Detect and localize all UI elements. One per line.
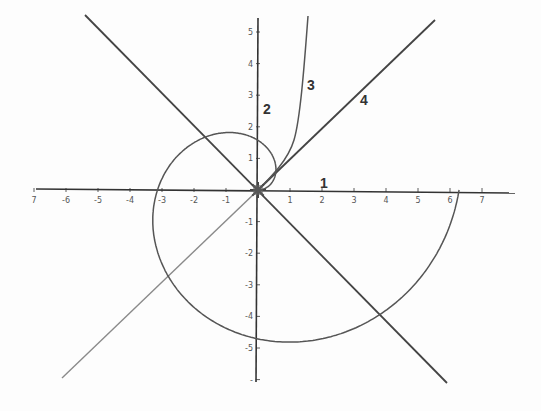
curve-label-3: 3 [307, 77, 315, 93]
x-tick-label: -5 [94, 196, 102, 205]
y-tick-label: -2 [245, 249, 253, 258]
y-tick-label: 2 [248, 123, 253, 132]
y-tick-label: -1 [245, 218, 253, 227]
rays [62, 15, 447, 383]
polar-plot-canvas: 7-6-5-4-3-2-11234567 54321-1-2-3-4-5- 12… [0, 0, 541, 411]
y-tick-label: -3 [245, 281, 253, 290]
archimedean-spiral [153, 133, 459, 343]
origin-marker [250, 182, 266, 198]
y-tick-label: 1 [248, 154, 253, 163]
x-tick-label: 7 [31, 196, 36, 205]
x-tick-label: 2 [319, 196, 324, 205]
y-tick-label: - [250, 376, 253, 385]
x-tick-label: -2 [190, 196, 198, 205]
axes [36, 18, 515, 382]
diagonal-negative-slope [85, 15, 447, 383]
plot-svg: 7-6-5-4-3-2-11234567 54321-1-2-3-4-5- 12… [0, 0, 541, 411]
x-tick-label: 6 [447, 196, 452, 205]
y-tick-label: 5 [248, 28, 253, 37]
x-axis [36, 189, 515, 193]
x-tick-label: -1 [222, 196, 230, 205]
x-tick-label: 1 [287, 196, 292, 205]
y-axis [256, 18, 258, 382]
x-tick-label: 4 [383, 196, 388, 205]
origin-point [253, 185, 263, 195]
y-tick-label: 3 [248, 91, 253, 100]
y-tick-label: -4 [245, 312, 253, 321]
x-tick-label: -4 [126, 196, 134, 205]
curve-label-1: 1 [320, 175, 328, 191]
x-tick-label: 5 [415, 196, 420, 205]
y-tick-label: -5 [245, 344, 253, 353]
curve-label-4: 4 [360, 92, 368, 108]
y-tick-label: 4 [248, 60, 253, 69]
x-tick-label: 3 [351, 196, 356, 205]
x-tick-label: -6 [62, 196, 70, 205]
curve-label-2: 2 [263, 101, 271, 117]
x-tick-label: 7 [479, 196, 484, 205]
diagonal-lower-left [62, 190, 258, 378]
line-4 [258, 20, 435, 190]
x-tick-label: -3 [158, 196, 166, 205]
